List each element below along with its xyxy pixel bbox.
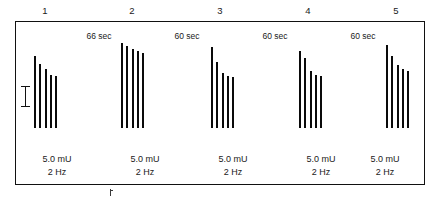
response-bar — [126, 46, 128, 128]
figure-root: 1 2 3 4 5 66 sec 60 sec 60 sec 60 sec — [0, 0, 438, 202]
scale-bar-stem — [25, 86, 26, 107]
dose-label-4: 5.0 mU 2 Hz — [286, 153, 356, 178]
burst-group-1-bars — [34, 36, 57, 128]
frequency-value-5: 2 Hz — [350, 166, 420, 179]
response-bar — [222, 73, 224, 128]
dose-value-2: 5.0 mU — [110, 153, 180, 166]
group-number-3: 3 — [200, 5, 240, 17]
interval-label-4-5: 60 sec — [333, 31, 393, 42]
response-bar — [232, 77, 234, 128]
calibration-scale-bar — [21, 86, 30, 107]
burst-group-4-bars — [299, 36, 322, 128]
group-number-2: 2 — [112, 5, 152, 17]
response-bar — [304, 58, 306, 128]
frequency-value-2: 2 Hz — [110, 166, 180, 179]
response-bar — [216, 62, 218, 128]
interval-label-1-2: 66 sec — [69, 31, 129, 42]
dose-label-3: 5.0 mU 2 Hz — [198, 153, 268, 178]
response-bar — [142, 53, 144, 128]
response-bar — [299, 51, 301, 128]
baseline-tick-icon — [109, 189, 113, 196]
burst-group-5-bars — [386, 36, 409, 128]
response-bar — [310, 71, 312, 128]
baseline-tick-flag — [110, 190, 113, 192]
dose-value-3: 5.0 mU — [198, 153, 268, 166]
plot-frame: 66 sec 60 sec 60 sec 60 sec — [15, 21, 425, 185]
response-bar — [39, 64, 41, 128]
response-bar — [34, 56, 36, 128]
dose-value-4: 5.0 mU — [286, 153, 356, 166]
dose-label-1: 5.0 mU 2 Hz — [22, 153, 92, 178]
response-bar — [45, 69, 47, 128]
interval-label-3-4: 60 sec — [245, 31, 305, 42]
dose-label-5: 5.0 mU 2 Hz — [350, 153, 420, 178]
response-bar — [55, 76, 57, 128]
dose-label-2: 5.0 mU 2 Hz — [110, 153, 180, 178]
response-bar — [132, 49, 134, 128]
frequency-value-3: 2 Hz — [198, 166, 268, 179]
response-bar — [211, 47, 213, 128]
response-bar — [402, 69, 404, 128]
response-bar — [50, 75, 52, 128]
interval-label-2-3: 60 sec — [157, 31, 217, 42]
response-bar — [227, 76, 229, 128]
frequency-value-4: 2 Hz — [286, 166, 356, 179]
response-bar — [391, 56, 393, 128]
response-bar — [386, 45, 388, 128]
group-number-1: 1 — [25, 5, 65, 17]
response-bar — [407, 71, 409, 128]
frequency-value-1: 2 Hz — [22, 166, 92, 179]
response-bar — [320, 76, 322, 128]
response-bar — [315, 75, 317, 128]
burst-group-3-bars — [211, 36, 234, 128]
response-bar — [397, 65, 399, 128]
dose-value-1: 5.0 mU — [22, 153, 92, 166]
burst-group-2-bars — [121, 36, 144, 128]
response-bar — [121, 43, 123, 128]
group-number-5: 5 — [376, 5, 416, 17]
dose-value-5: 5.0 mU — [350, 153, 420, 166]
scale-bar-bottom-cap — [21, 106, 30, 107]
response-bar — [137, 51, 139, 128]
group-number-4: 4 — [288, 5, 328, 17]
